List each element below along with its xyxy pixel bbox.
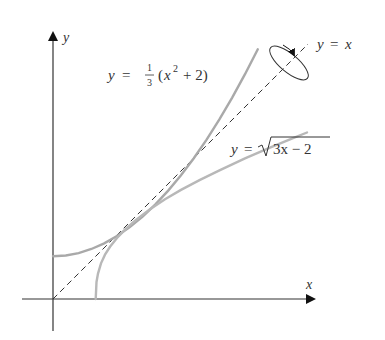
svg-text:x: x [344,36,352,52]
svg-text:2: 2 [173,63,178,74]
svg-text:y: y [229,141,238,157]
line-label: y = x [315,36,352,52]
svg-text:(: ( [158,67,163,84]
svg-text:=: = [122,67,130,83]
svg-text:3: 3 [147,77,152,88]
svg-text:x: x [163,67,171,83]
svg-text:=: = [330,36,338,52]
svg-text:1: 1 [147,62,152,73]
parabola-label: y = 1 3 ( x 2 + 2) [106,62,208,88]
svg-text:+ 2): + 2) [183,67,208,84]
svg-text:y: y [315,36,324,52]
x-axis-label: x [305,277,313,292]
parabola-curve [53,49,258,256]
sqrt-label: y = 3x − 2 [229,137,330,157]
line-y-equals-x [53,44,308,299]
svg-text:3x − 2: 3x − 2 [273,141,311,157]
svg-text:y: y [106,67,115,83]
y-axis-label: y [61,30,70,45]
svg-text:=: = [244,141,252,157]
sqrt-curve [96,133,307,300]
diagram-canvas: y x y = 1 3 ( x 2 + 2) y = x y = 3x − 2 [0,0,385,340]
